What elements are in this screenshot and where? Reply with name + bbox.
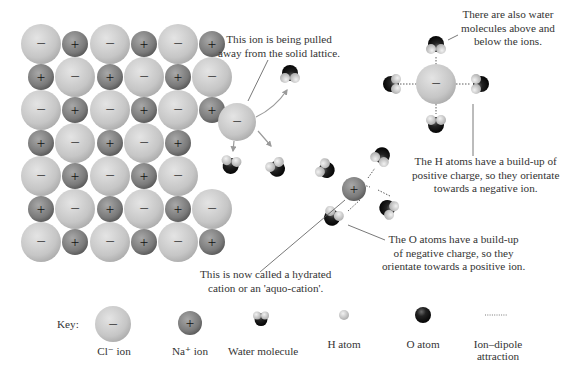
chloride-ion: − (90, 156, 130, 196)
pulled-chloride-ion: − (218, 103, 256, 141)
arrow-down (233, 141, 234, 151)
chloride-ion: − (21, 90, 61, 130)
svg-text:−: − (105, 232, 115, 251)
chloride-ion: − (90, 24, 130, 64)
chloride-ion: − (21, 222, 61, 262)
chloride-ion: − (21, 156, 61, 196)
svg-text:−: − (173, 100, 183, 119)
sodium-ion: + (97, 196, 123, 222)
svg-text:+: + (174, 201, 182, 217)
svg-text:−: − (105, 166, 115, 185)
sodium-ion: + (131, 163, 157, 189)
svg-text:+: + (37, 201, 45, 217)
chloride-ion: − (158, 24, 198, 64)
svg-text:+: + (37, 69, 45, 85)
sodium-ion: + (62, 97, 88, 123)
svg-text:+: + (71, 168, 79, 184)
svg-text:−: − (36, 100, 46, 119)
svg-text:+: + (106, 69, 114, 85)
chloride-ion: − (90, 222, 130, 262)
svg-text:−: − (70, 67, 80, 86)
arrow-up (256, 90, 287, 117)
annotation-pulled-ion: This ion is being pulled away from the s… (218, 33, 340, 60)
svg-text:+: + (208, 102, 216, 118)
plus-symbol: + (350, 181, 358, 197)
chloride-ion: − (124, 189, 164, 229)
chloride-ion: − (158, 156, 198, 196)
svg-text:+: + (174, 135, 182, 151)
chloride-ion: − (55, 123, 95, 163)
svg-text:−: − (36, 34, 46, 53)
svg-text:−: − (173, 34, 183, 53)
svg-text:−: − (70, 199, 80, 218)
sodium-ion: + (165, 64, 191, 90)
svg-text:+: + (37, 135, 45, 151)
annotation-hydrated-cation: This is now called a hydrated cation or … (200, 268, 331, 295)
sodium-ion: + (28, 64, 54, 90)
key-h-atom-icon (339, 310, 349, 320)
sodium-ion: + (165, 196, 191, 222)
svg-text:−: − (139, 133, 149, 152)
key-label-h-atom: H atom (324, 338, 364, 350)
water-molecule-approaching-3 (263, 155, 289, 181)
svg-text:−: − (70, 133, 80, 152)
chloride-ion: − (55, 57, 95, 97)
svg-text:−: − (36, 232, 46, 251)
minus-symbol: − (232, 112, 242, 131)
water-molecule-approaching-1 (280, 65, 300, 83)
svg-text:+: + (140, 234, 148, 250)
sodium-ion: + (62, 163, 88, 189)
svg-text:+: + (174, 69, 182, 85)
svg-text:−: − (108, 315, 118, 334)
annotation-o-atoms: The O atoms have a build-up of negative … (382, 233, 525, 274)
chloride-ion: − (90, 90, 130, 130)
annotation-h-atoms: The H atoms have a build-up of positive … (412, 155, 559, 196)
svg-text:+: + (140, 36, 148, 52)
svg-text:+: + (71, 36, 79, 52)
key-label-o-atom: O atom (401, 338, 445, 350)
sodium-ion: + (62, 31, 88, 57)
svg-text:+: + (106, 201, 114, 217)
chloride-ion: − (124, 57, 164, 97)
sodium-ion: + (62, 229, 88, 255)
key-title: Key: (57, 318, 79, 330)
svg-text:+: + (208, 234, 216, 250)
arrow-right (258, 131, 271, 146)
svg-text:+: + (140, 102, 148, 118)
key-label-na: Na⁺ ion (166, 345, 214, 357)
svg-text:+: + (140, 168, 148, 184)
sodium-ion: + (97, 130, 123, 156)
annotation-water-above-below: There are also water molecules above and… (461, 8, 555, 49)
sodium-ion: + (28, 196, 54, 222)
chloride-ion: − (192, 57, 232, 97)
sodium-ion: + (28, 130, 54, 156)
svg-text:−: − (139, 67, 149, 86)
key-water-icon (253, 312, 269, 326)
svg-text:−: − (173, 232, 183, 251)
water-molecule-approaching-2 (219, 154, 242, 175)
sodium-ion: + (199, 229, 225, 255)
minus-symbol: − (431, 74, 441, 93)
key-label-cl: Cl⁻ ion (91, 345, 137, 357)
key-legend: − + (95, 306, 508, 342)
key-o-atom-icon (415, 307, 431, 323)
sodium-ion: + (131, 31, 157, 57)
svg-text:+: + (186, 315, 194, 331)
sodium-ion: + (131, 229, 157, 255)
svg-text:−: − (105, 34, 115, 53)
svg-text:+: + (71, 234, 79, 250)
svg-text:−: − (105, 100, 115, 119)
pointer-line-pulled (248, 60, 268, 101)
chloride-ion: − (55, 189, 95, 229)
chloride-ion: − (158, 90, 198, 130)
svg-text:−: − (207, 67, 217, 86)
chloride-ion: − (21, 24, 61, 64)
svg-text:+: + (106, 135, 114, 151)
sodium-ion: + (131, 97, 157, 123)
svg-text:−: − (173, 166, 183, 185)
svg-text:−: − (36, 166, 46, 185)
chloride-ion: − (192, 189, 232, 229)
sodium-ion: + (97, 64, 123, 90)
svg-text:+: + (71, 102, 79, 118)
svg-text:−: − (139, 199, 149, 218)
